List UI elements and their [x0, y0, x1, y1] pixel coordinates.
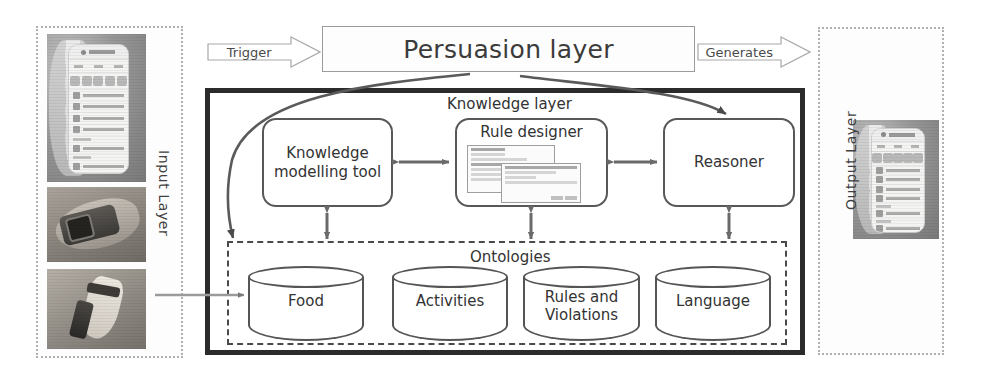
label-line-1: Knowledge: [274, 144, 381, 163]
list-item: [872, 209, 924, 218]
smartphone-output-photo: [853, 120, 939, 239]
rule-designer-screenshot: [467, 145, 579, 201]
trigger-arrow-label: Trigger: [207, 36, 291, 68]
cylinder-top: [523, 266, 640, 288]
app-quick-icons: [69, 73, 128, 91]
cylinder-top: [655, 266, 771, 288]
ontology-cylinder-activities[interactable]: Activities: [392, 266, 508, 341]
list-item: [69, 161, 128, 172]
label-line-1: Food: [248, 292, 364, 310]
persuasion-layer-box: Persuasion layer: [322, 26, 695, 72]
ontology-label-food: Food: [248, 292, 364, 310]
label-line-1: Activities: [392, 292, 508, 310]
ontology-cylinder-food[interactable]: Food: [248, 266, 364, 341]
smartphone-app-photo: [47, 34, 146, 182]
list-item: [69, 143, 128, 154]
list-item: [872, 185, 924, 194]
ankle-sensor-photo: [47, 269, 146, 349]
list-item: [872, 224, 924, 232]
persuasion-layer-title: Persuasion layer: [403, 35, 614, 64]
trigger-arrow: Trigger: [207, 36, 321, 68]
label-line-2: modelling tool: [274, 163, 381, 182]
list-item: [69, 113, 128, 124]
list-item: [872, 175, 924, 184]
list-item: [872, 166, 924, 175]
ontology-label-rules-and-violations: Rules and Violations: [523, 288, 640, 324]
phone-screen: [68, 44, 129, 173]
label-line-1: Language: [655, 292, 771, 310]
reasoner-box[interactable]: Reasoner: [663, 118, 795, 207]
rule-designer-box[interactable]: Rule designer: [455, 118, 608, 207]
app-tabs: [872, 142, 924, 152]
wrist-scene: [47, 187, 146, 262]
generates-arrow: Generates: [697, 36, 811, 68]
list-item: [69, 125, 128, 136]
list-item: [69, 102, 128, 113]
input-layer-label: Input Layer: [156, 150, 172, 236]
generates-arrow-label: Generates: [697, 36, 781, 68]
reasoner-label: Reasoner: [694, 153, 764, 172]
knowledge-layer-title: Knowledge layer: [447, 95, 572, 113]
ontology-label-language: Language: [655, 292, 771, 310]
label-line-2: Violations: [523, 306, 640, 324]
app-header: [872, 129, 924, 141]
list-section-header: [69, 136, 128, 143]
ontology-cylinder-rules-and-violations[interactable]: Rules and Violations: [523, 266, 640, 341]
app-tabs: [69, 60, 128, 72]
list-item: [872, 194, 924, 203]
ontology-cylinder-language[interactable]: Language: [655, 266, 771, 341]
ontologies-title: Ontologies: [470, 248, 550, 266]
ontology-label-activities: Activities: [392, 292, 508, 310]
app-quick-icons: [872, 152, 924, 166]
rule-dialog-window: [501, 163, 581, 203]
knowledge-modelling-tool-box[interactable]: Knowledge modelling tool: [262, 118, 393, 207]
cylinder-top: [248, 266, 364, 288]
app-bottom-bar: [69, 173, 128, 174]
phone-screen: [871, 128, 925, 232]
label-line-1: Rules and: [523, 288, 640, 306]
output-layer-label: Output Layer: [843, 111, 859, 210]
knowledge-modelling-tool-label: Knowledge modelling tool: [274, 144, 381, 182]
list-item: [69, 90, 128, 101]
ankle-scene: [47, 269, 146, 349]
architecture-diagram: Input Layer Output Layer Persuasion laye…: [0, 0, 988, 381]
cylinder-top: [392, 266, 508, 288]
smartwatch-wrist-photo: [47, 187, 146, 262]
app-header: [69, 45, 128, 60]
list-section-header: [69, 154, 128, 161]
rule-designer-label: Rule designer: [457, 120, 606, 142]
